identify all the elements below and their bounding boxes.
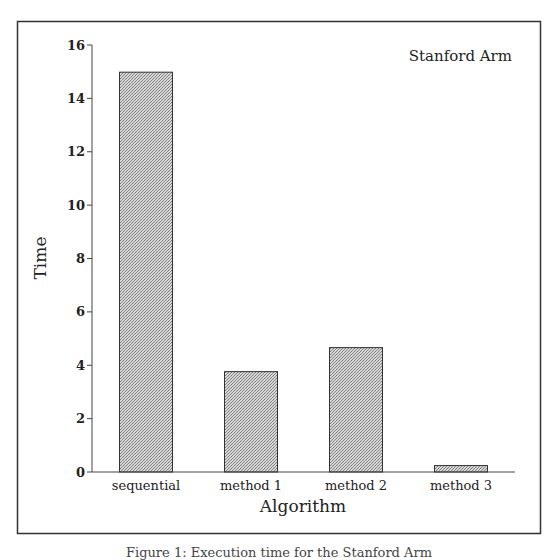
y-axis: 0246810121416 [67, 38, 92, 480]
y-tick-label: 10 [67, 198, 85, 213]
figure-caption: Figure 1: Execution time for the Stanfor… [0, 545, 558, 560]
bars [120, 72, 488, 472]
chart-frame [18, 22, 541, 534]
bar-method-2 [330, 348, 383, 472]
x-tick-label: method 2 [325, 478, 387, 493]
y-tick-label: 16 [67, 38, 85, 53]
x-tick-label: method 3 [430, 478, 492, 493]
y-tick-label: 4 [76, 358, 85, 373]
y-tick-label: 14 [67, 91, 85, 106]
bar-sequential [120, 72, 173, 472]
x-tick-label: method 1 [220, 478, 282, 493]
y-tick-label: 0 [76, 465, 85, 480]
y-tick-label: 2 [76, 411, 85, 426]
chart-annotation: Stanford Arm [409, 47, 512, 65]
y-tick-label: 8 [76, 251, 85, 266]
bar-method-3 [435, 466, 488, 472]
y-axis-title: Time [30, 237, 50, 280]
y-tick-label: 12 [67, 144, 85, 159]
x-axis: sequentialmethod 1method 2method 3 [92, 472, 515, 493]
x-axis-title: Algorithm [259, 496, 346, 516]
y-tick-label: 6 [76, 304, 85, 319]
x-tick-label: sequential [112, 478, 180, 493]
bar-method-1 [225, 372, 278, 472]
